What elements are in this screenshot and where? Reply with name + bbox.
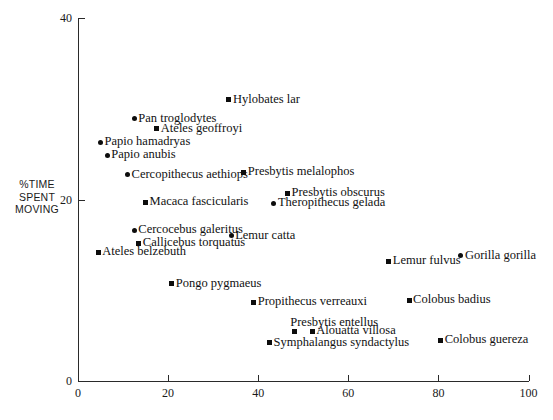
x-axis-tick-label: 20 — [151, 386, 185, 401]
data-point-label: Lemur fulvus — [393, 254, 461, 267]
y-axis-tick — [79, 381, 85, 382]
data-point-marker — [267, 340, 272, 345]
y-axis-tick-label: 40 — [42, 11, 72, 26]
x-axis-line — [78, 381, 529, 382]
data-point-label: Ateles geoffroyi — [161, 122, 242, 135]
data-point-marker — [458, 253, 463, 258]
data-point-marker — [271, 201, 276, 206]
data-point-marker — [132, 116, 137, 121]
y-axis-title-line-1: %TIME — [6, 178, 68, 191]
x-axis-tick-label: 80 — [421, 386, 455, 401]
data-point-marker — [132, 228, 137, 233]
data-point-marker — [251, 300, 256, 305]
scatter-plot-figure: %TIME SPENT MOVING 02040608010002040Hylo… — [0, 0, 553, 420]
data-point-label: Presbytis melalophos — [248, 165, 355, 178]
data-point-label: Hylobates lar — [233, 93, 300, 106]
data-point-marker — [125, 172, 130, 177]
data-point-marker — [105, 153, 110, 158]
data-point-label: Propithecus verreauxi — [258, 295, 367, 308]
x-axis-tick — [529, 375, 530, 381]
data-point-label: Pongo pygmaeus — [176, 277, 262, 290]
data-point-label: Theropithecus gelada — [278, 196, 385, 209]
data-point-marker — [438, 338, 443, 343]
data-point-marker — [241, 170, 246, 175]
data-point-marker — [143, 200, 148, 205]
y-axis-tick-label: 20 — [42, 193, 72, 208]
y-axis-tick-label: 0 — [42, 374, 72, 389]
data-point-marker — [226, 97, 231, 102]
data-point-label: Colobus guereza — [445, 333, 529, 346]
data-point-label: Gorilla gorilla — [465, 249, 536, 262]
x-axis-tick — [168, 375, 169, 381]
data-point-label: Papio anubis — [111, 148, 175, 161]
data-point-marker — [96, 250, 101, 255]
x-axis-tick-label: 100 — [512, 386, 546, 401]
data-point-label: Symphalangus syndactylus — [273, 336, 409, 349]
x-axis-tick-label: 60 — [331, 386, 365, 401]
data-point-marker — [407, 298, 412, 303]
x-axis-tick — [258, 375, 259, 381]
data-point-marker — [98, 140, 103, 145]
data-point-marker — [310, 329, 315, 334]
data-point-marker — [169, 281, 174, 286]
data-point-label: Colobus badius — [413, 293, 490, 306]
x-axis-tick-label: 40 — [241, 386, 275, 401]
data-point-marker — [229, 233, 234, 238]
x-axis-tick — [348, 375, 349, 381]
data-point-marker — [292, 329, 297, 334]
data-point-label: Ateles belzebuth — [102, 245, 186, 258]
data-point-marker — [386, 259, 391, 264]
y-axis-tick — [79, 200, 85, 201]
data-point-label: Lemur catta — [235, 229, 295, 242]
data-point-label: Macaca fascicularis — [150, 195, 249, 208]
x-axis-tick — [438, 375, 439, 381]
data-point-marker — [154, 126, 159, 131]
y-axis-tick — [79, 18, 85, 19]
data-point-label: Cercopithecus aethiops — [132, 168, 248, 181]
